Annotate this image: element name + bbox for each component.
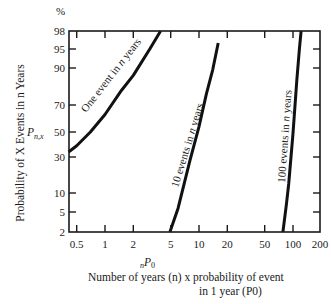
curve-1-events [69,31,161,152]
x-tick-label: 20 [222,238,234,250]
y-tick-label: 2 [60,226,66,238]
x-tick-label: 2 [131,238,137,250]
y-axis-title: Probability of X Events in n Years [14,64,27,222]
x-tick-labels: 0.5125102050100200 [70,238,329,250]
x-tick-label: 10 [194,238,206,250]
x-tick-label: 50 [259,238,271,250]
probability-chart: % 2510305070909598 0.5125102050100200 Pr… [0,0,331,304]
x-tick-label: 200 [312,238,329,250]
y-tick-label: 95 [54,43,66,55]
x-tick-label: 0.5 [70,238,84,250]
x-tick-label: 100 [285,238,302,250]
x-axis-symbol: nP0 [140,256,155,270]
y-tick-labels: 2510305070909598 [54,25,66,238]
y-tick-label: 90 [54,62,66,74]
y-tick-label: 30 [54,151,66,163]
x-tick-label: 5 [168,238,174,250]
y-tick-label: 10 [54,187,66,199]
curve-labels: One event in n years10 events in n years… [78,36,293,189]
x-axis-title-line2: in 1 year (P0) [199,285,262,298]
x-axis-title-line1: Number of years (n) x probability of eve… [88,271,285,284]
y-tick-label: 98 [54,25,66,37]
y-unit-label: % [56,5,65,17]
y-tick-label: 70 [54,99,66,111]
y-tick-label: 50 [54,126,66,138]
y-tick-label: 5 [60,206,66,218]
x-tick-label: 1 [102,238,108,250]
y-axis-symbol: Pn,x [26,126,44,141]
